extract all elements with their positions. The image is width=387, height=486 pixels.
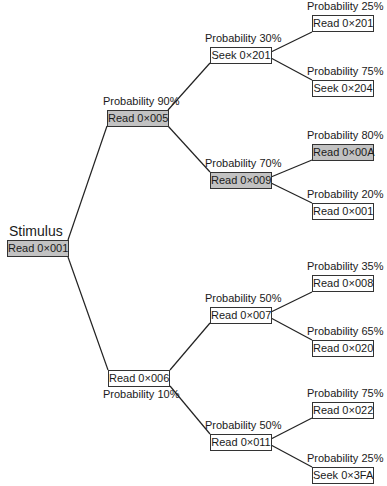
node-read-0x020: Read 0×020 <box>312 340 374 357</box>
probability-label-011: Probability 50% <box>205 419 281 432</box>
node-read-0x009: Read 0×009 <box>210 172 272 189</box>
probability-label-007: Probability 50% <box>205 292 281 305</box>
probability-label-r201: Probability 25% <box>307 0 383 13</box>
node-read-0x001-leaf: Read 0×001 <box>312 203 374 220</box>
node-seek-0x204: Seek 0×204 <box>312 80 374 97</box>
probability-label-s204: Probability 75% <box>307 65 383 78</box>
probability-label-005: Probability 90% <box>103 95 179 108</box>
node-read-0x006: Read 0×006 <box>108 370 170 387</box>
probability-label-001: Probability 20% <box>307 188 383 201</box>
edge-005-009 <box>168 126 210 172</box>
probability-label-3fa: Probability 25% <box>307 452 383 465</box>
edge-root-005 <box>68 126 107 240</box>
probability-label-s201: Probability 30% <box>205 32 281 45</box>
edge-006-007 <box>170 323 210 370</box>
node-read-0x022: Read 0×022 <box>312 402 374 419</box>
node-read-0x011: Read 0×011 <box>210 434 272 451</box>
probability-label-006: Probability 10% <box>103 388 179 401</box>
probability-label-009: Probability 70% <box>205 157 281 170</box>
edge-root-006 <box>68 257 108 370</box>
node-read-0x008: Read 0×008 <box>312 275 374 292</box>
node-read-0x005: Read 0×005 <box>107 110 169 127</box>
probability-tree-diagram: Stimulus Read 0×001 Probability 90% Read… <box>0 0 387 486</box>
node-read-0x201: Read 0×201 <box>312 15 374 32</box>
edge-009-001 <box>271 183 312 203</box>
probability-label-022: Probability 75% <box>307 387 383 400</box>
node-root-read-0x001: Read 0×001 <box>7 240 69 257</box>
node-read-0x007: Read 0×007 <box>210 307 272 324</box>
probability-label-008: Probability 35% <box>307 260 383 273</box>
node-seek-0x3fa: Seek 0×3FA <box>312 467 374 484</box>
stimulus-title: Stimulus <box>9 223 63 239</box>
probability-label-00a: Probability 80% <box>307 129 383 142</box>
edge-011-3fa <box>271 445 312 467</box>
node-seek-0x201: Seek 0×201 <box>210 47 272 64</box>
edge-s201-s204 <box>271 58 312 80</box>
node-read-0x00a: Read 0×00A <box>312 144 374 161</box>
edge-007-020 <box>271 318 312 340</box>
probability-label-020: Probability 65% <box>307 325 383 338</box>
